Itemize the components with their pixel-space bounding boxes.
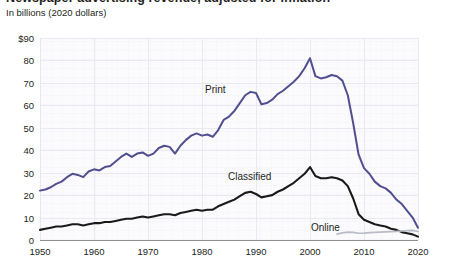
- series-label-print: Print: [205, 84, 226, 95]
- x-axis-labels: 19501960197019801990200020102020: [0, 0, 449, 277]
- x-axis-tick-label: 2000: [299, 246, 320, 257]
- x-axis-tick-label: 1970: [137, 246, 158, 257]
- series-label-classified: Classified: [228, 171, 271, 182]
- chart-container: Newspaper advertising revenue, adjusted …: [0, 0, 449, 277]
- x-axis-tick-label: 1960: [83, 246, 104, 257]
- x-axis-tick-label: 1990: [245, 246, 266, 257]
- x-axis-tick-label: 2020: [407, 246, 428, 257]
- series-label-online: Online: [311, 222, 340, 233]
- x-axis-tick-label: 1980: [191, 246, 212, 257]
- x-axis-tick-label: 1950: [29, 246, 50, 257]
- x-axis-tick-label: 2010: [353, 246, 374, 257]
